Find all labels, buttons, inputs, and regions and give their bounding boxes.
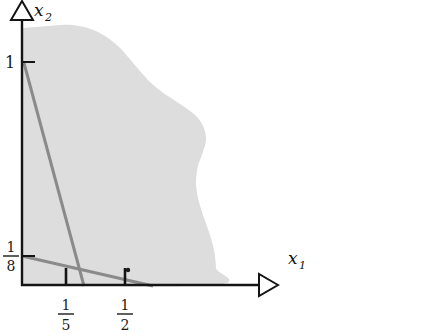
triangle-right-icon xyxy=(259,274,278,296)
x-tick-label-1-5-denominator: 5 xyxy=(62,317,71,333)
feasible-region-chart: x 1 x 2 1 1 8 1 5 1 2 xyxy=(0,0,429,335)
figure-container: x 1 x 2 1 1 8 1 5 1 2 xyxy=(0,0,429,335)
y-tick-label-1: 1 xyxy=(5,53,15,72)
x-tick-label-1-2-numerator: 1 xyxy=(121,297,130,313)
y-tick-label-1-8-denominator: 8 xyxy=(7,258,16,274)
marked-point xyxy=(126,268,130,272)
feasible-region-shape xyxy=(22,25,230,286)
x-tick-label-1-2-denominator: 2 xyxy=(121,317,130,333)
y-axis-label-subscript: 2 xyxy=(44,11,52,24)
x-tick-label-1-5: 1 5 xyxy=(58,297,74,333)
y-axis-label: x 2 xyxy=(34,0,52,24)
triangle-up-icon xyxy=(11,1,33,20)
y-axis-label-base: x xyxy=(34,0,44,20)
y-tick-label-1-8-numerator: 1 xyxy=(7,239,16,255)
y-tick-label-1-8: 1 8 xyxy=(3,239,19,274)
x-axis-label: x 1 xyxy=(288,248,306,272)
x-tick-label-1-2: 1 2 xyxy=(117,297,133,333)
x-tick-label-1-5-numerator: 1 xyxy=(62,297,71,313)
x-axis-label-subscript: 1 xyxy=(299,259,306,272)
x-axis-label-base: x xyxy=(288,248,298,268)
